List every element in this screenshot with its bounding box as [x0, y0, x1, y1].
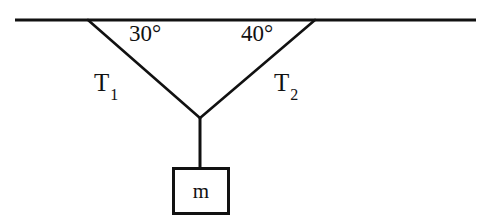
tension-t2-label: T2 — [274, 70, 297, 100]
tension-t2-subscript: 2 — [290, 86, 298, 103]
tension-t2-base: T — [274, 69, 289, 96]
physics-diagram-figure: 30° 40° T1 T2 m — [0, 0, 489, 224]
angle-right-label: 40° — [241, 22, 273, 45]
tension-t1-subscript: 1 — [110, 86, 118, 103]
tension-t1-label: T1 — [94, 70, 117, 100]
angle-left-label: 30° — [129, 22, 161, 45]
mass-box-label: m — [172, 167, 230, 215]
tension-t1-base: T — [94, 69, 109, 96]
